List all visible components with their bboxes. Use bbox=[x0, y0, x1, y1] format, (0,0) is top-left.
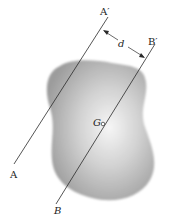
label-g: G bbox=[93, 117, 101, 128]
dimension-arrowhead-right bbox=[139, 53, 145, 58]
centroid-marker bbox=[101, 122, 105, 126]
rigid-body-shape bbox=[47, 60, 154, 200]
label-b: B bbox=[53, 205, 61, 216]
label-d: d bbox=[118, 38, 124, 49]
label-b-prime: B′ bbox=[148, 36, 158, 47]
diagram-svg: A′ B′ d G A B bbox=[0, 0, 169, 218]
label-a: A bbox=[9, 169, 18, 180]
label-a-prime: A′ bbox=[99, 6, 110, 17]
dimension-arrowhead-left bbox=[103, 30, 109, 35]
parallel-axis-diagram: A′ B′ d G A B bbox=[0, 0, 169, 218]
